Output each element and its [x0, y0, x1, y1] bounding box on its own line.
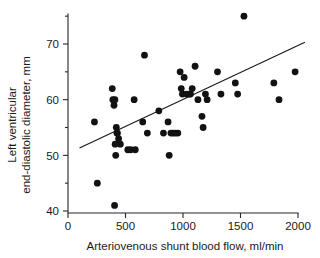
data-point: [139, 119, 146, 126]
data-point: [204, 96, 211, 103]
data-point: [174, 130, 181, 137]
x-tick-label: 2000: [285, 220, 311, 232]
data-point: [292, 68, 299, 75]
data-point: [270, 80, 277, 87]
axis-spine: [68, 14, 298, 213]
x-tick-label: 0: [65, 220, 71, 232]
y-axis-title-line2: end-diastolic diameter, mm: [20, 56, 32, 193]
tick-marks: [63, 16, 298, 218]
data-point: [199, 113, 206, 120]
y-tick-label: 40: [46, 205, 59, 217]
data-point: [132, 146, 139, 153]
x-tick-label: 500: [116, 220, 135, 232]
data-point: [181, 74, 188, 81]
x-tick-label: 1500: [228, 220, 254, 232]
data-point: [131, 96, 138, 103]
x-tick-label: 1000: [170, 220, 196, 232]
scatter-plot: 405060700500100015002000 Arteriovenous s…: [0, 0, 320, 258]
data-point: [241, 13, 248, 20]
data-point: [155, 107, 162, 114]
data-point: [218, 91, 225, 98]
data-points: [91, 13, 298, 209]
data-point: [160, 130, 167, 137]
data-point: [112, 96, 119, 103]
data-point: [141, 52, 148, 59]
y-tick-label: 50: [46, 150, 59, 162]
data-point: [166, 152, 173, 159]
data-point: [214, 68, 221, 75]
data-point: [232, 80, 239, 87]
axes: [68, 14, 298, 213]
data-point: [117, 141, 124, 148]
data-point: [91, 119, 98, 126]
data-point: [192, 63, 199, 70]
data-point: [200, 124, 207, 131]
y-axis-title-line1: Left ventricular: [6, 87, 18, 163]
data-point: [109, 85, 116, 92]
data-point: [165, 119, 172, 126]
data-point: [177, 68, 184, 75]
data-point: [112, 152, 119, 159]
data-point: [94, 180, 101, 187]
data-point: [111, 202, 118, 209]
data-point: [195, 96, 202, 103]
data-point: [276, 96, 283, 103]
y-tick-label: 70: [46, 38, 59, 50]
chart-figure: 405060700500100015002000 Arteriovenous s…: [0, 0, 320, 258]
data-point: [144, 130, 151, 137]
data-point: [189, 85, 196, 92]
y-tick-label: 60: [46, 94, 59, 106]
x-axis-title: Arteriovenous shunt blood flow, ml/min: [87, 240, 284, 252]
data-point: [234, 91, 241, 98]
